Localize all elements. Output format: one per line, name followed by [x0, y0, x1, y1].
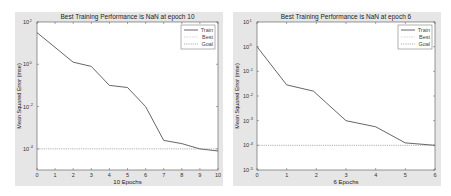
x-tick-label: 3 — [344, 172, 347, 178]
legend-entry-train: Train — [201, 27, 213, 33]
x-axis-label: 6 Epochs — [333, 179, 358, 185]
x-tick-label: 2 — [72, 172, 75, 178]
chart-title: Best Training Performance is NaN at epoc… — [281, 13, 412, 21]
legend-entry-best: Best — [202, 34, 213, 40]
x-tick-label: 2 — [315, 172, 318, 178]
y-tick-exponent: 1 — [250, 18, 253, 23]
y-axis-label: Mean Squared Error (mse) — [16, 63, 22, 129]
y-tick-label: 10 — [243, 118, 249, 124]
chart-title: Best Training Performance is NaN at epoc… — [60, 13, 194, 21]
x-tick-label: 1 — [54, 172, 57, 178]
x-tick-label: 4 — [108, 172, 111, 178]
x-tick-label: 1 — [285, 172, 288, 178]
y-axis-label: Mean Squared Error (mse) — [234, 63, 240, 129]
y-tick-exponent: -1 — [250, 67, 254, 72]
x-tick-label: 6 — [144, 172, 147, 178]
y-tick-label: 10 — [243, 167, 249, 173]
y-tick-label: 10 — [23, 146, 29, 152]
y-tick-label: 10 — [243, 19, 249, 25]
y-tick-label: 10 — [243, 93, 249, 99]
chart-panel-left: Best Training Performance is NaN at epoc… — [15, 12, 223, 186]
x-tick-label: 4 — [374, 172, 377, 178]
x-tick-label: 10 — [215, 172, 221, 178]
y-tick-label: 10 — [23, 104, 29, 110]
x-tick-label: 3 — [90, 172, 93, 178]
y-tick-label: 10 — [23, 61, 29, 67]
y-tick-exponent: -2 — [250, 92, 254, 97]
y-tick-exponent: 0 — [30, 60, 33, 65]
x-tick-label: 5 — [126, 172, 129, 178]
legend-entry-best: Best — [419, 34, 430, 40]
y-tick-exponent: -5 — [250, 166, 254, 171]
y-tick-exponent: -4 — [250, 141, 254, 146]
x-tick-label: 6 — [433, 172, 436, 178]
y-tick-label: 10 — [243, 44, 249, 50]
legend-entry-goal: Goal — [418, 41, 430, 47]
x-tick-label: 0 — [35, 172, 38, 178]
y-tick-exponent: -2 — [30, 102, 34, 107]
y-tick-exponent: -4 — [30, 144, 34, 149]
y-tick-exponent: 0 — [250, 42, 253, 47]
x-tick-label: 0 — [255, 172, 258, 178]
x-tick-label: 7 — [162, 172, 165, 178]
y-tick-label: 10 — [23, 19, 29, 25]
x-tick-label: 8 — [180, 172, 183, 178]
x-axis-label: 10 Epochs — [113, 179, 141, 185]
y-tick-label: 10 — [243, 142, 249, 148]
y-tick-exponent: -3 — [250, 116, 254, 121]
y-tick-exponent: 2 — [30, 18, 33, 23]
y-tick-label: 10 — [243, 68, 249, 74]
legend-entry-goal: Goal — [201, 41, 213, 47]
legend-entry-train: Train — [418, 27, 430, 33]
chart-panel-right: Best Training Performance is NaN at epoc… — [233, 12, 441, 186]
x-tick-label: 5 — [404, 172, 407, 178]
x-tick-label: 9 — [198, 172, 201, 178]
